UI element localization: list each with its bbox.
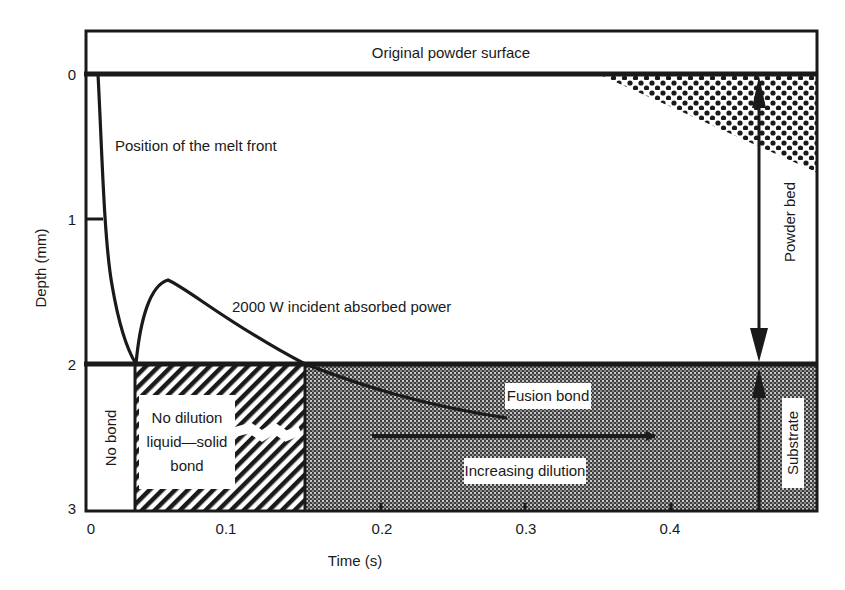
powder-bed-arrow-down-icon bbox=[750, 328, 768, 362]
depth-time-diagram: Original powder surface Position of the … bbox=[0, 0, 845, 590]
x-tick-label-0.3: 0.3 bbox=[516, 520, 537, 537]
top-band-label: Original powder surface bbox=[372, 44, 530, 61]
melt-front-curve bbox=[98, 74, 136, 364]
x-tick-label-0.2: 0.2 bbox=[372, 520, 393, 537]
power-label: 2000 W incident absorbed power bbox=[232, 298, 451, 315]
fusion-bond-label: Fusion bond bbox=[507, 387, 590, 404]
y-tick-label-0: 0 bbox=[68, 66, 76, 83]
no-dilution-label-line3: bond bbox=[170, 457, 203, 474]
x-tick-label-0.1: 0.1 bbox=[216, 520, 237, 537]
no-bond-label: No bond bbox=[102, 410, 119, 467]
x-axis-title: Time (s) bbox=[328, 552, 382, 569]
no-dilution-label-line2: liquid—solid bbox=[147, 433, 228, 450]
melt-front-label: Position of the melt front bbox=[115, 137, 278, 154]
y-tick-label-2: 2 bbox=[68, 356, 76, 373]
region-powder-bed bbox=[600, 75, 816, 172]
x-tick-label-0.4: 0.4 bbox=[660, 520, 681, 537]
increasing-dilution-label: Increasing dilution bbox=[465, 462, 586, 479]
no-dilution-label-line1: No dilution bbox=[152, 409, 223, 426]
y-axis-title: Depth (mm) bbox=[32, 228, 49, 307]
x-tick-label-0: 0 bbox=[87, 520, 95, 537]
powder-bed-label: Powder bed bbox=[781, 182, 798, 262]
y-tick-label-3: 3 bbox=[68, 500, 76, 517]
y-tick-label-1: 1 bbox=[68, 211, 76, 228]
substrate-label: Substrate bbox=[784, 411, 801, 475]
